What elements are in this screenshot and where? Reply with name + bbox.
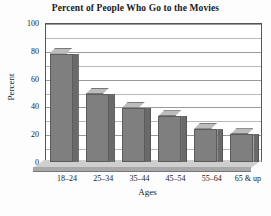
x-axis-tick-label: 35–44 [129, 174, 149, 183]
bar-45-54 [158, 110, 181, 162]
x-axis-tick-label: 18–24 [57, 174, 77, 183]
bar-side-face [253, 134, 259, 162]
x-axis-tick-label: 25–34 [93, 174, 113, 183]
bar-front-face [158, 116, 181, 162]
floor-front-edge [33, 167, 251, 172]
x-axis-tick-labels: 18–2425–3435–4445–5455–6465 & up [33, 174, 271, 188]
bar-front-face [50, 54, 73, 162]
bar-55-64 [194, 123, 217, 162]
y-axis-tick-label: 80 [31, 46, 39, 55]
bar-series [45, 23, 262, 162]
bar-18-24 [50, 48, 73, 162]
bar-front-face [122, 108, 145, 162]
bar-front-face [86, 94, 109, 162]
y-axis-tick-label: 100 [27, 19, 39, 28]
bar-side-face [217, 129, 223, 162]
x-axis-tick-label: 55–64 [202, 174, 222, 183]
bar-35-44 [122, 102, 145, 162]
y-axis-tick-label: 20 [31, 130, 39, 139]
bar-25-34 [86, 88, 109, 162]
x-axis-title: Ages [33, 187, 262, 197]
bar-front-face [194, 129, 217, 162]
bar-front-face [230, 134, 253, 162]
bar-side-face [109, 94, 115, 162]
bar-side-face [181, 116, 187, 162]
x-axis-tick-label: 65 & up [235, 174, 261, 183]
chart-screenshot: Percent of People Who Go to the Movies P… [0, 0, 271, 216]
y-axis-tick-label: 40 [31, 102, 39, 111]
y-axis-tick-labels: 020406080100 [0, 23, 43, 162]
bar-65-up [230, 128, 253, 162]
chart-title: Percent of People Who Go to the Movies [0, 3, 271, 13]
bar-side-face [145, 108, 151, 162]
y-axis-tick-label: 60 [31, 74, 39, 83]
x-axis-tick-label: 45–54 [166, 174, 186, 183]
bar-side-face [73, 54, 79, 162]
